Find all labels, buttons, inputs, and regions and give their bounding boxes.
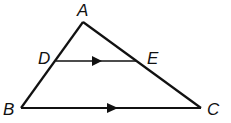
segment-ab bbox=[21, 22, 83, 108]
label-d: D bbox=[38, 50, 50, 67]
triangle-figure bbox=[0, 0, 231, 123]
parallel-arrow-icon-bc bbox=[107, 103, 118, 113]
label-a: A bbox=[77, 2, 88, 19]
segment-ac bbox=[83, 22, 201, 108]
label-b: B bbox=[3, 101, 14, 118]
triangle-diagram: A D E B C bbox=[0, 0, 231, 123]
label-c: C bbox=[207, 101, 219, 118]
parallel-arrow-icon-de bbox=[92, 56, 102, 66]
label-e: E bbox=[147, 50, 158, 67]
